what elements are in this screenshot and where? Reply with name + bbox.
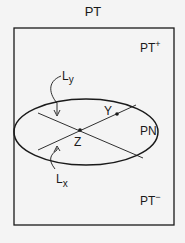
- pn-label: PN: [140, 124, 157, 138]
- line-lx: [38, 105, 136, 150]
- pt-minus-label: PT−: [140, 192, 161, 208]
- y-point-dot: [115, 112, 119, 116]
- lx-arrow: [51, 148, 57, 169]
- title-label: PT: [85, 4, 102, 19]
- lx-label: Lx: [56, 172, 68, 189]
- ly-label: Ly: [62, 69, 74, 85]
- ly-arrow: [51, 76, 61, 114]
- y-label: Y: [104, 104, 112, 118]
- pt-plus-label: PT+: [140, 39, 161, 55]
- z-point-dot: [78, 128, 82, 132]
- diagram-canvas: PT PT+ Z Y PN Ly Lx PT−: [0, 0, 185, 243]
- z-label: Z: [74, 135, 81, 149]
- line-ly: [38, 113, 143, 158]
